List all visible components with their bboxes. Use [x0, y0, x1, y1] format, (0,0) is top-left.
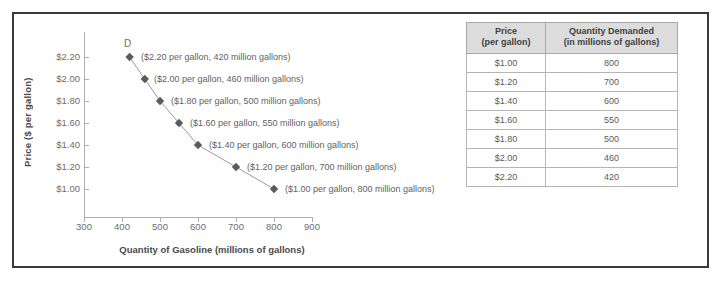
table-row: $1.80 500 [467, 129, 678, 148]
table-header-quantity-line1: Quantity Demanded [569, 26, 654, 36]
demand-curve-label: D [124, 38, 131, 49]
table-header-price: Price (per gallon) [467, 23, 546, 54]
cell-quantity: 420 [546, 167, 678, 186]
y-tick-label: $2.00 [36, 73, 80, 84]
cell-price: $2.00 [467, 148, 546, 167]
x-axis-title: Quantity of Gasoline (millions of gallon… [62, 244, 362, 255]
cell-quantity: 500 [546, 129, 678, 148]
cell-price: $2.20 [467, 167, 546, 186]
demand-schedule-table: Price (per gallon) Quantity Demanded (in… [466, 22, 678, 187]
cell-quantity: 800 [546, 53, 678, 72]
point-annotation: ($1.40 per gallon, 600 million gallons) [209, 140, 359, 150]
x-tick-label: 300 [67, 221, 101, 232]
demand-curve-chart: Price ($ per gallon) Quantity of Gasolin… [14, 14, 474, 266]
table-header-quantity: Quantity Demanded (in millions of gallon… [546, 23, 678, 54]
cell-price: $1.80 [467, 129, 546, 148]
point-annotation: ($2.00 per gallon, 460 million gallons) [154, 74, 304, 84]
y-tick-label: $1.80 [36, 95, 80, 106]
y-tick-label: $1.00 [36, 183, 80, 194]
cell-quantity: 700 [546, 72, 678, 91]
y-tick-mark [84, 189, 89, 190]
table-row: $1.00 800 [467, 53, 678, 72]
cell-price: $1.60 [467, 110, 546, 129]
point-annotation: ($1.80 per gallon, 500 million gallons) [171, 96, 321, 106]
y-tick-label: $2.20 [36, 51, 80, 62]
table-row: $1.20 700 [467, 72, 678, 91]
point-annotation: ($1.60 per gallon, 550 million gallons) [190, 118, 340, 128]
y-axis-line [84, 32, 85, 218]
y-tick-mark [84, 123, 89, 124]
cell-quantity: 600 [546, 91, 678, 110]
table-header-row: Price (per gallon) Quantity Demanded (in… [467, 23, 678, 54]
y-tick-label: $1.40 [36, 139, 80, 150]
y-tick-label: $1.60 [36, 117, 80, 128]
y-tick-label: $1.20 [36, 161, 80, 172]
cell-quantity: 550 [546, 110, 678, 129]
point-annotation: ($2.20 per gallon, 420 million gallons) [141, 52, 291, 62]
y-tick-mark [84, 101, 89, 102]
cell-price: $1.20 [467, 72, 546, 91]
table-row: $1.40 600 [467, 91, 678, 110]
cell-quantity: 460 [546, 148, 678, 167]
x-tick-label: 800 [257, 221, 291, 232]
y-tick-mark [84, 145, 89, 146]
table-row: $1.60 550 [467, 110, 678, 129]
y-tick-mark [84, 57, 89, 58]
y-tick-mark [84, 167, 89, 168]
table-row: $2.20 420 [467, 167, 678, 186]
x-tick-label: 400 [105, 221, 139, 232]
table-header-quantity-line2: (in millions of gallons) [564, 37, 660, 47]
figure-frame: Price ($ per gallon) Quantity of Gasolin… [12, 12, 709, 268]
table-header-price-line1: Price [495, 26, 517, 36]
cell-price: $1.00 [467, 53, 546, 72]
x-tick-label: 900 [295, 221, 329, 232]
point-annotation: ($1.00 per gallon, 800 million gallons) [285, 184, 435, 194]
table-row: $2.00 460 [467, 148, 678, 167]
cell-price: $1.40 [467, 91, 546, 110]
demand-schedule-table-container: Price (per gallon) Quantity Demanded (in… [466, 22, 698, 187]
table-header-price-line2: (per gallon) [482, 37, 531, 47]
x-tick-label: 700 [219, 221, 253, 232]
x-tick-label: 600 [181, 221, 215, 232]
x-tick-label: 500 [143, 221, 177, 232]
y-tick-mark [84, 79, 89, 80]
point-annotation: ($1.20 per gallon, 700 million gallons) [247, 162, 397, 172]
